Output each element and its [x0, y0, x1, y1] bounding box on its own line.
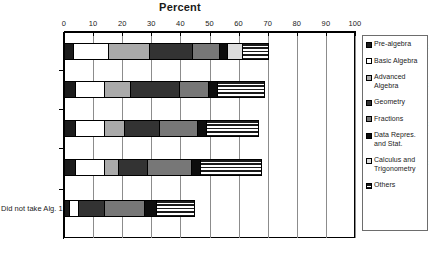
- bar-segment: [160, 120, 198, 137]
- legend-item[interactable]: Advanced Algebra: [366, 73, 425, 90]
- legend-swatch-icon: [366, 133, 372, 139]
- bar-segment: [64, 159, 76, 176]
- x-axis-tick: [326, 32, 327, 36]
- legend-label: Fractions: [374, 115, 403, 124]
- y-axis-line: [63, 32, 64, 239]
- bar-segment: [105, 81, 131, 98]
- bar-segment: [218, 81, 265, 98]
- bar-segment: [243, 43, 269, 60]
- x-axis-tick-label: 40: [168, 19, 192, 28]
- legend-item[interactable]: Data Repres. and Stat.: [366, 131, 425, 148]
- legend-label: Advanced Algebra: [374, 73, 406, 90]
- x-axis-tick-label: 90: [314, 19, 338, 28]
- x-axis-tick-label: 30: [139, 19, 163, 28]
- x-axis-tick: [210, 32, 211, 36]
- plot-area: [64, 32, 355, 238]
- legend: Pre-algebraBasic AlgebraAdvanced Algebra…: [362, 35, 428, 231]
- x-axis-tick: [355, 32, 356, 36]
- table-row: [64, 81, 265, 98]
- bar-segment: [76, 81, 105, 98]
- bar-segment: [201, 159, 262, 176]
- legend-swatch-icon: [366, 58, 372, 64]
- legend-item[interactable]: Fractions: [366, 115, 425, 124]
- bar-segment: [131, 81, 180, 98]
- legend-swatch-icon: [366, 183, 372, 189]
- x-axis-tick-label: 10: [81, 19, 105, 28]
- bar-segment: [145, 200, 157, 217]
- legend-label: Data Repres. and Stat.: [374, 131, 416, 148]
- legend-label: Pre-algebra: [374, 40, 411, 49]
- table-row: [64, 43, 269, 60]
- bar-segment: [105, 200, 146, 217]
- bar-segment: [198, 120, 207, 137]
- bar-segment: [220, 43, 229, 60]
- y-axis-tick: [59, 189, 63, 190]
- bar-segment: [70, 200, 79, 217]
- x-axis-tick-label: 20: [110, 19, 134, 28]
- category-label-line: Did not take Alg. 1: [1, 204, 63, 214]
- table-row: [64, 200, 195, 217]
- x-axis-tick: [93, 32, 94, 36]
- bar-segment: [157, 200, 195, 217]
- gridline: [268, 32, 269, 238]
- legend-label: Geometry: [374, 98, 405, 107]
- x-axis-tick: [64, 32, 65, 36]
- bar-segment: [74, 43, 109, 60]
- bar-segment: [150, 43, 194, 60]
- y-axis-tick: [59, 109, 63, 110]
- x-axis-tick: [239, 32, 240, 36]
- x-axis-tick-label: 70: [256, 19, 280, 28]
- bar-segment: [228, 43, 243, 60]
- bar-segment: [125, 120, 160, 137]
- gridline: [355, 32, 356, 238]
- chart-title: Percent: [0, 1, 360, 13]
- bar-segment: [64, 120, 76, 137]
- legend-label: Others: [374, 181, 395, 190]
- legend-swatch-icon: [366, 42, 372, 48]
- x-axis-tick: [151, 32, 152, 36]
- table-row: [64, 159, 262, 176]
- y-axis-tick: [59, 70, 63, 71]
- bar-segment: [105, 159, 120, 176]
- bar-segment: [79, 200, 105, 217]
- bar-segment: [193, 43, 219, 60]
- legend-item[interactable]: Calculus and Trigonometry: [366, 156, 425, 173]
- x-axis-tick-label: 50: [198, 19, 222, 28]
- bar-segment: [209, 81, 218, 98]
- category-label: Did not take Alg. 1: [0, 204, 63, 214]
- x-axis-tick-label: 100: [343, 19, 367, 28]
- legend-swatch-icon: [366, 75, 372, 81]
- bar-segment: [109, 43, 150, 60]
- x-axis-tick-label: 80: [285, 19, 309, 28]
- legend-swatch-icon: [366, 116, 372, 122]
- bar-segment: [119, 159, 148, 176]
- bar-segment: [105, 120, 125, 137]
- x-axis-tick: [297, 32, 298, 36]
- legend-item[interactable]: Others: [366, 181, 425, 190]
- y-axis-tick: [59, 148, 63, 149]
- bar-segment: [76, 159, 105, 176]
- x-axis-tick: [180, 32, 181, 36]
- bar-segment: [180, 81, 209, 98]
- gridline: [326, 32, 327, 238]
- bar-segment: [76, 120, 105, 137]
- legend-label: Calculus and Trigonometry: [374, 156, 416, 173]
- bar-segment: [64, 81, 76, 98]
- legend-item[interactable]: Geometry: [366, 98, 425, 107]
- legend-item[interactable]: Pre-algebra: [366, 40, 425, 49]
- bar-segment: [64, 43, 74, 60]
- legend-item[interactable]: Basic Algebra: [366, 57, 425, 66]
- x-axis-tick-label: 0: [52, 19, 76, 28]
- bar-segment: [192, 159, 201, 176]
- bar-segment: [148, 159, 192, 176]
- legend-swatch-icon: [366, 100, 372, 106]
- x-axis-tick: [122, 32, 123, 36]
- x-axis-tick-label: 60: [227, 19, 251, 28]
- x-axis-tick: [268, 32, 269, 36]
- bar-segment: [207, 120, 259, 137]
- table-row: [64, 120, 259, 137]
- legend-swatch-icon: [366, 158, 372, 164]
- gridline: [297, 32, 298, 238]
- legend-label: Basic Algebra: [374, 57, 417, 66]
- stacked-bar-chart: Percent 0102030405060708090100 Took Alg.…: [0, 0, 431, 254]
